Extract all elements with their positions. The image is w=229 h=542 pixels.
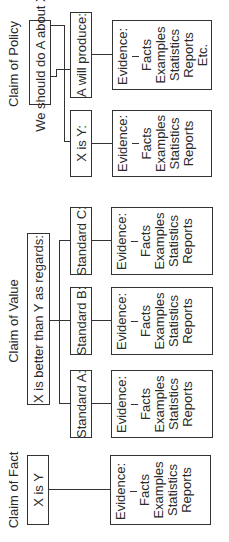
evidence-item: Examples (153, 288, 167, 354)
evidence-item: Statistics (166, 456, 180, 524)
evidence-label: Evidence: (115, 213, 129, 270)
policy-x-bus (64, 25, 65, 142)
evidence-item: Examples (154, 111, 168, 176)
standard-c-connector (92, 240, 111, 241)
claim-of-fact-title: Claim of Fact (6, 452, 21, 529)
evidence-item: Facts (139, 288, 153, 354)
policy-x-connector (51, 25, 64, 26)
standard-a-evidence-box: Evidence: Facts Examples Statistics Repo… (111, 370, 213, 438)
evidence-label: Evidence: (116, 28, 130, 85)
evidence-item: Facts (139, 371, 153, 437)
evidence-item: Facts (139, 208, 153, 274)
argument-claims-diagram: Claim of Fact X is Y Evidence: Facts Exa… (0, 0, 229, 542)
value-bus (59, 240, 60, 404)
evidence-item: Statistics (167, 371, 181, 437)
policy-a-jog (56, 70, 57, 77)
fact-connector (49, 489, 110, 490)
claim-of-policy-title: Claim of Policy (6, 21, 21, 107)
evidence-item: Statistics (168, 111, 182, 176)
policy-a-will-produce-connector (92, 54, 112, 55)
value-connector (50, 320, 59, 321)
policy-a-will-produce-evidence-box: Evidence: Facts Examples Statistics Repo… (112, 20, 212, 90)
standard-c-box: Standard C: (70, 207, 92, 275)
evidence-item: Facts (138, 456, 152, 524)
value-drop-c (59, 240, 70, 241)
evidence-tick (132, 56, 139, 57)
standard-b-connector (92, 320, 111, 321)
evidence-item: Statistics (168, 21, 182, 89)
evidence-tick (131, 241, 138, 242)
fact-claim-box: X is Y (27, 455, 49, 525)
evidence-tick (130, 491, 137, 492)
claim-of-value-title: Claim of Value (6, 279, 21, 363)
evidence-item: Examples (152, 456, 166, 524)
evidence-item: Reports (182, 111, 196, 176)
evidence-label: Evidence: (114, 463, 128, 520)
evidence-item: Examples (153, 371, 167, 437)
policy-a-will-produce-box: A will produce: (70, 12, 92, 98)
evidence-item: Examples (153, 208, 167, 274)
evidence-tick (131, 404, 138, 405)
policy-x-is-y-box: X is Y: (70, 110, 92, 177)
standard-b-box: Standard B: (70, 287, 92, 355)
evidence-item: Reports (181, 208, 195, 274)
evidence-tick (131, 321, 138, 322)
policy-x-is-y-connector (92, 143, 112, 144)
evidence-label: Evidence: (116, 115, 130, 172)
evidence-item: Reports (180, 456, 194, 524)
evidence-item: Reports (182, 21, 196, 89)
fact-evidence-box: Evidence: Facts Examples Statistics Repo… (110, 455, 211, 525)
evidence-item: Examples (154, 21, 168, 89)
evidence-item: Facts (140, 111, 154, 176)
value-drop-a (59, 403, 70, 404)
evidence-label: Evidence: (115, 293, 129, 350)
evidence-item: Facts (140, 21, 154, 89)
evidence-item: Reports (181, 288, 195, 354)
value-claim-box: X is better than Y as regards: (27, 233, 50, 405)
evidence-label: Evidence: (115, 376, 129, 433)
policy-x-is-y-evidence-box: Evidence: Facts Examples Statistics Repo… (112, 110, 212, 177)
value-drop-b (59, 320, 70, 321)
evidence-tick (132, 143, 139, 144)
standard-b-evidence-box: Evidence: Facts Examples Statistics Repo… (111, 287, 213, 355)
policy-a-drop (56, 69, 70, 70)
evidence-item: Statistics (167, 288, 181, 354)
policy-claim-box: We should do A about X (29, 20, 51, 105)
standard-a-box: Standard A: (70, 370, 92, 438)
standard-c-evidence-box: Evidence: Facts Examples Statistics Repo… (111, 207, 213, 275)
evidence-item: Statistics (167, 208, 181, 274)
evidence-item: Etc. (196, 21, 210, 89)
evidence-item: Reports (181, 371, 195, 437)
standard-a-connector (92, 403, 111, 404)
